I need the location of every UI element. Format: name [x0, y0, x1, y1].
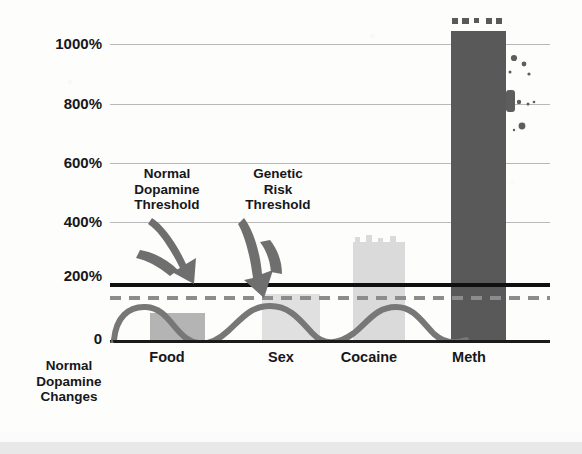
ytick-label-1000: 1000% — [6, 35, 102, 52]
category-label-food: Food — [122, 349, 212, 365]
ytick-label-600: 600% — [6, 154, 102, 171]
category-label-meth: Meth — [424, 349, 514, 365]
annotation-genetic-risk-threshold: Genetic Risk Threshold — [232, 166, 324, 213]
category-label-sex: Sex — [236, 349, 326, 365]
page-edge-highlight — [0, 432, 582, 442]
annotation-normal-dopamine-changes: Normal Dopamine Changes — [16, 358, 122, 405]
bar-sex — [262, 294, 320, 343]
ytick-label-200: 200% — [6, 267, 102, 284]
genetic-risk-threshold-line — [110, 296, 550, 300]
dopamine-chart: 1000% 800% 600% 400% 200% 0 — [0, 0, 582, 454]
page-bottom-band — [0, 442, 582, 454]
ytick-label-800: 800% — [6, 95, 102, 112]
bar-food — [150, 313, 205, 343]
ytick-label-400: 400% — [6, 213, 102, 230]
annotation-normal-dopamine-threshold: Normal Dopamine Threshold — [121, 166, 213, 213]
category-label-cocaine: Cocaine — [324, 349, 414, 365]
x-axis-baseline — [110, 340, 550, 343]
normal-dopamine-threshold-line — [110, 283, 550, 287]
arrow-normal-threshold — [136, 218, 196, 284]
ytick-label-0: 0 — [6, 330, 102, 347]
bar-cocaine — [353, 242, 405, 343]
